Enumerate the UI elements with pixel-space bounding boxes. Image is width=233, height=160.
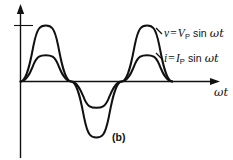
- y-axis-arrowhead: [17, 4, 24, 14]
- voltage-equals: =: [169, 27, 178, 39]
- voltage-sin-function: sin: [193, 27, 207, 39]
- voltage-argument: ωt: [210, 26, 224, 40]
- voltage-amplitude-symbol: V: [178, 27, 185, 39]
- voltage-amplitude-subscript: P: [185, 32, 190, 41]
- current-amplitude-subscript: P: [180, 57, 185, 66]
- current-equals: =: [167, 52, 176, 64]
- sine-wave-figure: v=VP sin ωt i=IP sin ωt ωt (b): [0, 0, 233, 160]
- current-equation-label: i=IP sin ωt: [164, 51, 219, 66]
- current-argument: ωt: [205, 51, 219, 65]
- x-axis-label: ωt: [214, 85, 228, 99]
- figure-caption: (b): [112, 131, 125, 143]
- current-sin-function: sin: [188, 52, 202, 64]
- voltage-equation-label: v=VP sin ωt: [164, 26, 224, 41]
